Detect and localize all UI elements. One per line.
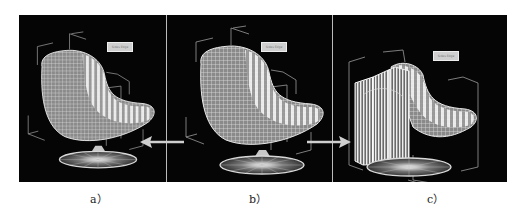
panel-b: Sides Edge xyxy=(166,15,333,182)
caption-b: b） xyxy=(249,190,267,206)
chair-wireframe-b xyxy=(167,15,333,182)
panel-a: Sides Edge xyxy=(19,15,166,182)
arrow-left-icon xyxy=(138,135,186,149)
chair-wireframe-a xyxy=(19,15,166,182)
view-tag-c: Sides Edge xyxy=(433,51,459,61)
arrow-right-icon xyxy=(305,135,353,149)
chair-wireframe-c xyxy=(333,15,507,182)
caption-c: c） xyxy=(427,190,444,206)
panel-c: Sides Edge xyxy=(332,15,507,182)
view-tag-b: Sides Edge xyxy=(261,42,287,52)
caption-a: a） xyxy=(90,190,108,206)
view-tag-a: Sides Edge xyxy=(107,42,133,52)
